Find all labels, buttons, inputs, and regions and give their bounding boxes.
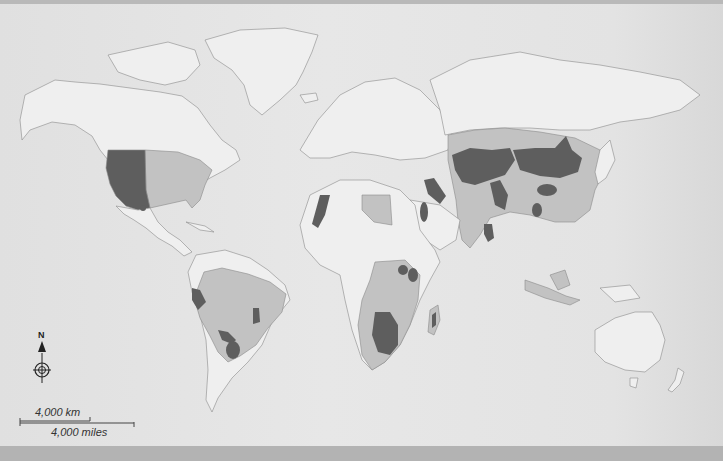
region-arctic-islands — [108, 42, 200, 85]
region-india-high — [484, 224, 494, 242]
region-usa-west — [106, 150, 150, 210]
region-europe — [300, 78, 452, 160]
scale-miles-label: 4,000 miles — [51, 426, 107, 438]
region-caspian-high — [424, 178, 446, 204]
world-map: N 4,000 km 4,000 miles — [0, 0, 723, 461]
bottom-frame-band — [0, 446, 723, 461]
region-borneo — [550, 270, 570, 290]
north-label: N — [38, 330, 45, 340]
region-new-guinea — [600, 285, 640, 302]
region-japan — [595, 140, 615, 184]
region-china-high — [537, 184, 557, 196]
region-new-zealand — [668, 368, 684, 392]
region-greenland — [205, 28, 318, 115]
region-caribbean — [186, 222, 214, 232]
region-russia — [430, 52, 700, 135]
region-mexico — [116, 206, 192, 256]
region-central-asia-medium — [448, 128, 605, 248]
region-brazil-hotspot — [253, 308, 260, 324]
region-indonesia — [525, 280, 580, 305]
region-mexico-hotspot — [140, 205, 146, 211]
region-iceland — [300, 93, 318, 103]
region-se-asia-high — [532, 203, 542, 217]
region-arabia-high — [420, 202, 428, 222]
region-tasmania — [630, 378, 638, 388]
region-argentina-hotspot — [226, 341, 240, 359]
map-canvas — [0, 0, 723, 461]
region-australia — [595, 312, 665, 372]
north-arrow — [33, 341, 51, 383]
scale-km-label: 4,000 km — [35, 406, 80, 418]
